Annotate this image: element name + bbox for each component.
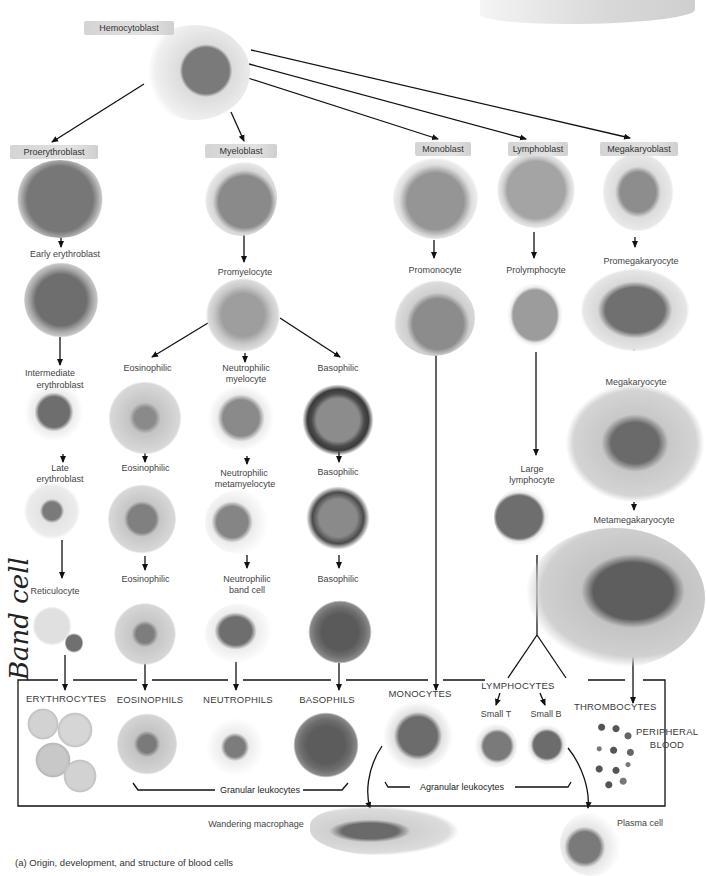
thrombocytes-cluster <box>592 720 640 792</box>
label-promyelocyte: Promyelocyte <box>214 266 276 278</box>
label-basophilic-band: Basophilic <box>313 573 363 585</box>
label-granular-leukocytes: Granular leukocytes <box>214 784 306 796</box>
handwritten-note: Band cell <box>4 557 34 680</box>
label-basophilic-metamyelocyte: Basophilic <box>313 466 363 478</box>
eosinophilic-metamyelocyte-cell <box>108 483 176 555</box>
hemocytoblast-cell <box>140 25 250 120</box>
label-small-t: Small T <box>476 708 516 720</box>
label-large-lymphocyte-2: lymphocyte <box>500 474 564 486</box>
label-monoblast: Monoblast <box>415 142 471 156</box>
neutrophilic-metamyelocyte-cell <box>205 490 273 554</box>
label-eosinophils: EOSINOPHILS <box>114 694 186 706</box>
label-lymphoblast: Lymphoblast <box>508 142 568 156</box>
label-small-b: Small B <box>526 708 566 720</box>
monoblast-cell <box>393 155 478 239</box>
label-reticulocyte: Reticulocyte <box>25 585 85 597</box>
label-neutrophilic-myelocyte-2: myelocyte <box>222 373 270 385</box>
extruded-nucleus <box>65 632 83 654</box>
label-promegakaryocyte: Promegakaryocyte <box>598 255 684 267</box>
erythrocyte <box>63 759 97 793</box>
neutrophil-cell <box>205 718 265 776</box>
label-plasma-cell: Plasma cell <box>615 817 665 829</box>
label-eosinophilic-myelocyte: Eosinophilic <box>120 362 175 374</box>
promonocyte-cell <box>393 280 475 356</box>
label-peripheral-blood-1: PERIPHERAL <box>636 726 698 738</box>
neutrophilic-band-cell <box>205 604 273 664</box>
label-monocytes: MONOCYTES <box>388 688 452 700</box>
basophilic-myelocyte-cell <box>302 384 374 456</box>
label-prolymphocyte: Prolymphocyte <box>502 264 570 276</box>
metamegakaryocyte-cell <box>525 528 705 668</box>
label-late-erythroblast-2: erythroblast <box>30 473 90 485</box>
label-myeloblast: Myeloblast <box>205 144 277 158</box>
intermediate-erythroblast-cell <box>24 382 84 442</box>
figure-caption: (a) Origin, development, and structure o… <box>15 857 233 868</box>
basophilic-metamyelocyte-cell <box>305 485 371 551</box>
label-agranular-leukocytes: Agranular leukocytes <box>410 781 514 793</box>
eosinophil-cell <box>117 712 177 776</box>
late-erythroblast-cell <box>24 482 80 540</box>
lymphoblast-cell <box>496 152 576 228</box>
myeloblast-cell <box>205 160 277 236</box>
erythrocyte <box>27 708 59 740</box>
label-erythrocytes: ERYTHROCYTES <box>26 693 102 705</box>
label-intermediate-erythroblast-2: erythroblast <box>30 379 90 391</box>
basophilic-band-cell <box>308 600 372 664</box>
label-eosinophilic-metamyelocyte: Eosinophilic <box>118 462 173 474</box>
label-megakaryocyte: Megakaryocyte <box>600 376 672 388</box>
eosinophilic-myelocyte-cell <box>108 381 182 455</box>
neutrophilic-myelocyte-cell <box>208 384 274 452</box>
small-t-lymphocyte-cell <box>473 724 517 768</box>
label-thrombocytes: THROMBOCYTES <box>574 701 654 713</box>
promyelocyte-cell <box>205 278 281 352</box>
erythrocyte <box>57 712 93 748</box>
small-b-lymphocyte-cell <box>527 724 567 766</box>
proerythroblast-cell <box>15 160 105 238</box>
label-neutrophilic-metamyelocyte-2: metamyelocyte <box>210 478 280 490</box>
monocyte-cell <box>383 700 453 772</box>
prolymphocyte-cell <box>507 283 563 347</box>
label-peripheral-blood-2: BLOOD <box>643 739 691 751</box>
promegakaryocyte-cell <box>580 268 690 352</box>
eosinophilic-band-cell <box>114 602 176 666</box>
label-megakaryoblast: Megakaryoblast <box>600 142 678 156</box>
basophil-cell <box>293 712 359 778</box>
label-neutrophils: NEUTROPHILS <box>202 694 274 706</box>
large-lymphocyte-cell <box>494 488 550 546</box>
label-eosinophilic-band: Eosinophilic <box>118 573 173 585</box>
label-early-erythroblast: Early erythroblast <box>25 248 105 260</box>
plasma-cell <box>560 812 622 876</box>
early-erythroblast-cell <box>24 262 98 338</box>
label-intermediate-erythroblast-1: Intermediate <box>25 367 75 379</box>
label-hemocytoblast: Hemocytoblast <box>84 21 174 35</box>
label-basophils: BASOPHILS <box>296 694 358 706</box>
label-metamegakaryocyte: Metamegakaryocyte <box>586 514 682 526</box>
label-proerythroblast: Proerythroblast <box>10 145 98 159</box>
label-basophilic-myelocyte: Basophilic <box>313 362 363 374</box>
label-neutrophilic-band-2: band cell <box>225 584 269 596</box>
megakaryoblast-cell <box>602 152 674 232</box>
label-wandering-macrophage: Wandering macrophage <box>206 818 306 830</box>
label-lymphocytes: LYMPHOCYTES <box>480 680 556 692</box>
megakaryocyte-cell <box>565 383 705 503</box>
label-promonocyte: Promonocyte <box>405 264 465 276</box>
